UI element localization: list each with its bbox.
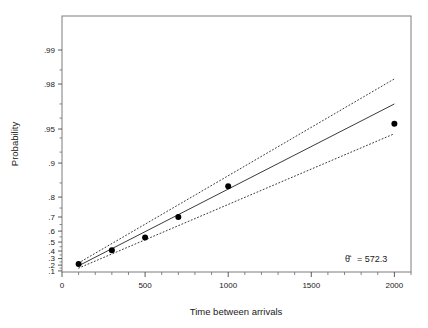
y-tick-label-.95: .95 [44,125,56,134]
data-point-500 [142,234,148,240]
y-tick-label-.4: .4 [48,247,55,256]
x-tick-label-0: 0 [60,281,65,290]
x-tick-label-1500: 1500 [302,281,320,290]
y-tick-label-.5: .5 [48,238,55,247]
figure-background [0,0,428,328]
x-axis-title: Time between arrivals [190,306,283,317]
data-point-100 [76,261,82,267]
x-tick-label-500: 500 [138,281,152,290]
x-tick-label-2000: 2000 [385,281,403,290]
probability-plot-figure: .1.2.3.4.5.6.7.8.9.95.98.99 050010001500… [0,0,428,328]
y-tick-label-.6: .6 [48,227,55,236]
y-tick-label-.7: .7 [48,213,55,222]
y-tick-label-.99: .99 [44,46,56,55]
y-tick-label-.8: .8 [48,193,55,202]
data-point-300 [109,247,115,253]
y-axis-title: Probability [9,122,20,167]
theta-hat-value: = 572.3 [357,254,387,264]
y-tick-label-.9: .9 [48,159,55,168]
data-point-1000 [225,183,231,189]
plot-canvas: .1.2.3.4.5.6.7.8.9.95.98.99 050010001500… [0,0,428,328]
data-point-2000 [391,121,397,127]
y-tick-label-.98: .98 [44,80,56,89]
data-point-700 [175,214,181,220]
x-tick-label-1000: 1000 [219,281,237,290]
